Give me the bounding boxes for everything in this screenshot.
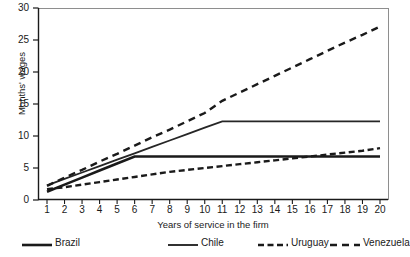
legend-item-brazil[interactable]: Brazil [22, 236, 80, 250]
legend-swatch-uruguay [258, 237, 288, 249]
legend-swatch-venezuela [330, 237, 360, 249]
legend-label: Chile [201, 237, 224, 249]
legend-label: Brazil [55, 237, 80, 249]
series-line-brazil [47, 156, 380, 191]
y-tick-label: 10 [5, 131, 29, 141]
series-line-uruguay [47, 148, 380, 189]
y-tick-label: 25 [5, 35, 29, 45]
chart-legend: BrazilChileUruguayVenezuela [0, 236, 409, 252]
y-tick-label: 15 [5, 99, 29, 109]
legend-item-venezuela[interactable]: Venezuela [330, 236, 410, 250]
x-tick-label: 20 [370, 205, 390, 215]
x-axis [38, 200, 388, 205]
y-tick-label: 30 [5, 3, 29, 13]
legend-label: Venezuela [363, 237, 410, 249]
legend-label: Uruguay [291, 237, 329, 249]
y-axis-ticks [33, 8, 39, 200]
y-axis [33, 8, 39, 200]
y-tick-label: 5 [5, 163, 29, 173]
legend-swatch-chile [168, 237, 198, 249]
series-line-venezuela [47, 27, 380, 186]
legend-swatch-brazil [22, 237, 52, 249]
y-tick-label: 20 [5, 67, 29, 77]
legend-item-uruguay[interactable]: Uruguay [258, 236, 329, 250]
data-lines [47, 27, 380, 192]
y-tick-label: 0 [5, 195, 29, 205]
legend-item-chile[interactable]: Chile [168, 236, 224, 250]
